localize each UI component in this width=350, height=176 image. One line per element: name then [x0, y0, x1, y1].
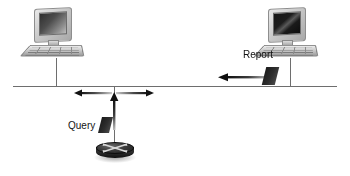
query-label: Query	[68, 120, 95, 131]
keyboard-icon	[20, 45, 85, 57]
monitor-icon	[34, 7, 72, 43]
keyboard-col	[305, 47, 306, 54]
monitor-icon	[268, 7, 306, 43]
query-data-packet-icon	[98, 117, 113, 133]
monitor-screen	[39, 11, 67, 35]
left-workstation	[28, 8, 84, 64]
keyboard-col	[71, 47, 72, 54]
network-bus-line	[13, 86, 337, 87]
four-way-arrow-icon	[96, 142, 134, 154]
report-label: Report	[243, 49, 273, 60]
monitor-screen	[273, 11, 301, 35]
keyboard-row	[25, 55, 79, 56]
report-data-packet-icon	[262, 67, 279, 85]
router	[93, 140, 137, 164]
network-diagram-canvas: Query Report	[0, 0, 350, 176]
